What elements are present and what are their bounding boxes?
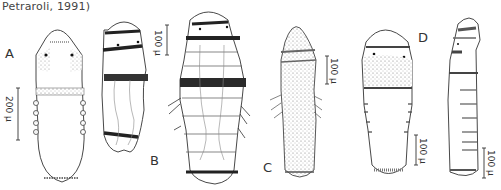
panel-label-c: C — [263, 160, 272, 175]
panel-label-d: D — [418, 30, 428, 45]
panel-label-b: B — [150, 153, 159, 168]
specimen-a — [16, 30, 86, 182]
specimen-b-large — [168, 12, 250, 184]
scale-bar-c-label: 100 μ — [329, 58, 339, 84]
scale-bar-d-right-label: 100 μ — [486, 150, 496, 176]
specimen-d-right — [448, 18, 486, 178]
scale-bar-b-label: 100 μ — [153, 30, 163, 56]
scale-bar-d-left-label: 100 μ — [418, 138, 428, 164]
specimen-d-left — [362, 30, 418, 174]
scale-bar-a-label: 200 μ — [4, 96, 14, 122]
panel-label-a: A — [5, 46, 14, 61]
specimen-c — [270, 27, 329, 177]
